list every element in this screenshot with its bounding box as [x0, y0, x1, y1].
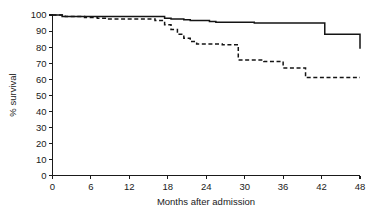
survival-chart-figure: 0102030405060708090100 0612182430364248 … [0, 0, 382, 213]
y-tick-label: 40 [36, 106, 47, 117]
y-tick-label: 60 [36, 74, 47, 85]
x-tick-label: 18 [163, 181, 174, 192]
kaplan-meier-plot: 0102030405060708090100 0612182430364248 … [0, 0, 382, 213]
y-axis-title: % survival [7, 73, 18, 116]
y-tick-label: 70 [36, 58, 47, 69]
x-tick-label: 30 [239, 181, 250, 192]
y-tick-label: 10 [36, 154, 47, 165]
x-tick-label: 12 [124, 181, 135, 192]
x-tick-label: 0 [50, 181, 55, 192]
x-tick-label: 24 [201, 181, 212, 192]
y-tick-label: 90 [36, 25, 47, 36]
x-tick-label: 48 [355, 181, 366, 192]
x-axis-title: Months after admission [157, 196, 255, 207]
series-solid-curve [53, 15, 361, 49]
y-axis-tick-labels: 0102030405060708090100 [31, 9, 47, 181]
y-tick-label: 100 [31, 9, 47, 20]
x-axis-tick-labels: 0612182430364248 [50, 181, 365, 192]
y-tick-label: 80 [36, 42, 47, 53]
x-tick-label: 36 [278, 181, 289, 192]
x-tick-label: 6 [88, 181, 93, 192]
y-tick-label: 50 [36, 90, 47, 101]
series-dashed-curve [53, 15, 361, 78]
y-tick-label: 30 [36, 122, 47, 133]
y-tick-label: 0 [41, 170, 46, 181]
y-tick-label: 20 [36, 138, 47, 149]
x-tick-label: 42 [316, 181, 327, 192]
series-group [53, 15, 361, 78]
